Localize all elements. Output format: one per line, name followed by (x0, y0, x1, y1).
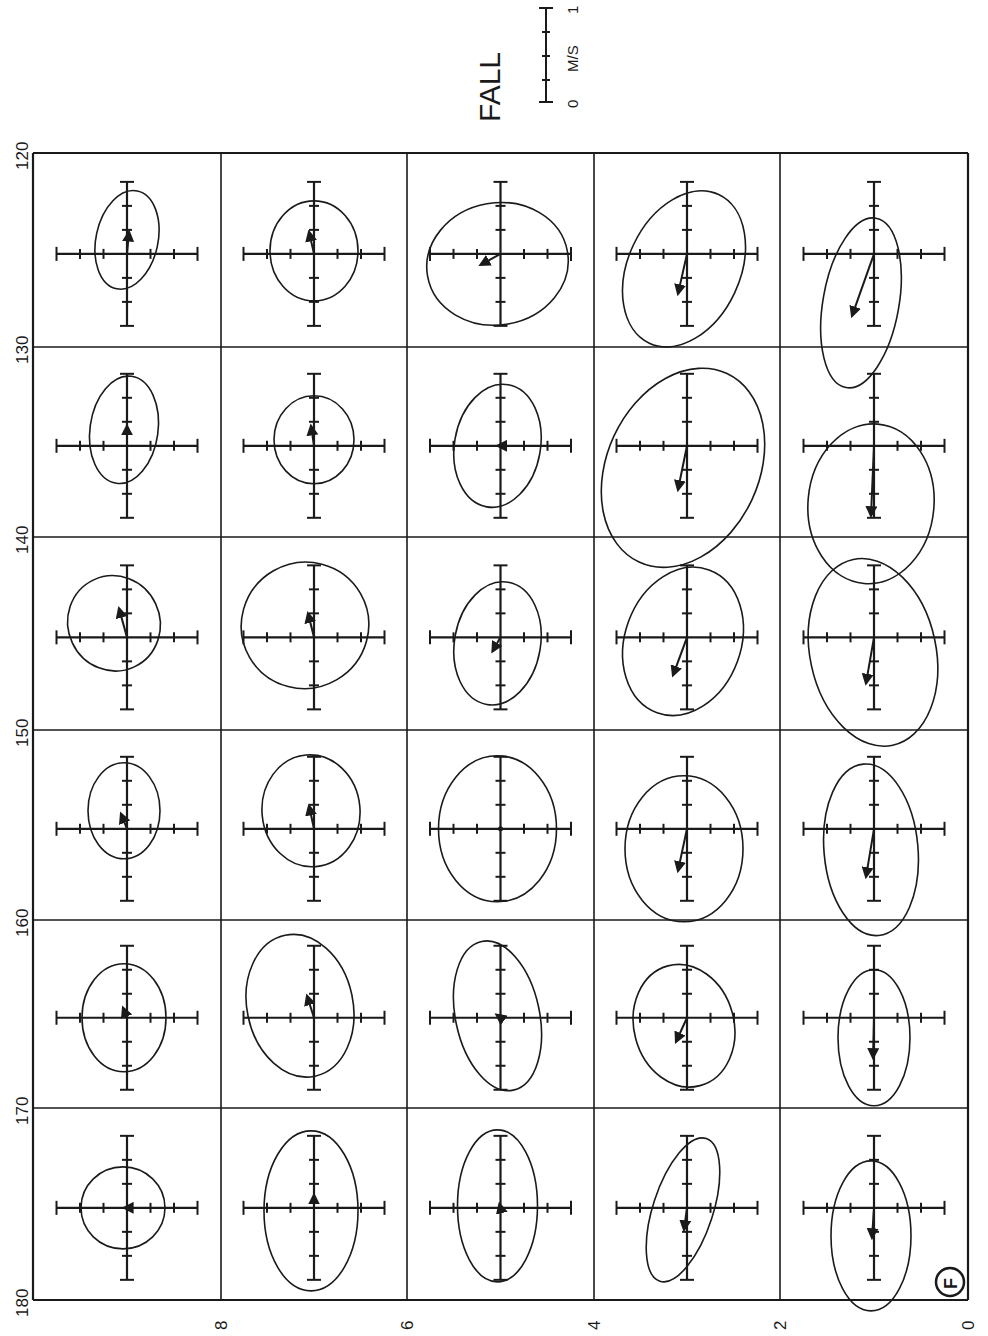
ellipse-cell (603, 550, 764, 733)
ellipse-cell (417, 182, 578, 336)
ellipse-cell (430, 756, 571, 902)
variance-ellipse (631, 1129, 734, 1290)
variance-ellipse (233, 924, 367, 1087)
variance-ellipse (264, 1131, 358, 1291)
axis-left-tick-label: 160 (13, 909, 32, 937)
ellipse-cell (617, 757, 758, 922)
ellipse-cell (570, 341, 796, 594)
axis-left-tick-label: 120 (13, 142, 32, 170)
ellipse-cell (218, 539, 392, 712)
ellipse-cell (57, 757, 198, 901)
ellipse-cell (430, 1130, 571, 1282)
axis-bottom-tick-label: 6 (398, 1321, 417, 1330)
ellipse-cell (599, 171, 770, 367)
mean-velocity-arrow (481, 254, 501, 265)
mean-velocity-arrow (678, 254, 687, 294)
ellipse-cells (52, 171, 954, 1311)
ellipse-cell (57, 1136, 198, 1280)
mean-velocity-dot (498, 826, 503, 831)
axis-left-tick-label: 140 (13, 526, 32, 554)
ellipse-cell (57, 372, 198, 518)
ellipse-cell (244, 374, 385, 518)
ellipse-cell (430, 933, 571, 1099)
variance-ellipse (88, 763, 160, 859)
mean-velocity-arrow (852, 254, 874, 316)
scale-bar-start: 0 (564, 100, 581, 108)
axis-bottom-tick-label: 2 (771, 1321, 790, 1330)
mean-velocity-arrow (500, 1204, 501, 1208)
chart-title: FALL (473, 52, 506, 122)
variance-ellipse (52, 560, 176, 686)
ellipse-cell (804, 757, 945, 940)
axis-left-tick-label: 180 (13, 1289, 32, 1317)
axis-bottom-labels: 86420 (212, 1321, 978, 1330)
axis-left-tick-label: 130 (13, 336, 32, 364)
mean-velocity-arrow (493, 637, 501, 651)
ellipse-cell (244, 751, 385, 901)
axis-left-tick-label: 170 (13, 1097, 32, 1125)
scale-bar: 0 M/S 1 (539, 6, 581, 108)
variance-ellipse (603, 550, 764, 733)
mean-velocity-arrow (673, 637, 687, 675)
axis-bottom-tick-label: 8 (212, 1321, 231, 1330)
ellipse-cell (430, 565, 571, 712)
scale-bar-end: 1 (564, 6, 581, 14)
variance-ellipse (458, 1130, 538, 1282)
variance-ellipse (417, 191, 578, 336)
ellipse-cell (617, 1129, 758, 1290)
variance-ellipse (809, 212, 914, 395)
mean-velocity-arrow (678, 829, 687, 871)
axis-left-tick-label: 150 (13, 719, 32, 747)
ellipse-cell (57, 946, 198, 1090)
ellipse-cell (244, 182, 385, 326)
variance-ellipse (218, 539, 392, 712)
axis-bottom-tick-label: 4 (585, 1321, 604, 1330)
ellipse-cell (804, 946, 945, 1106)
ellipse-cell (792, 546, 955, 758)
mean-velocity-arrow (678, 446, 687, 490)
ellipse-cell (801, 374, 944, 589)
ellipse-cell (617, 946, 758, 1099)
mean-velocity-arrow (676, 1018, 687, 1042)
ellipse-cell (57, 182, 198, 326)
scale-bar-unit: M/S (564, 45, 581, 72)
panel-marker: F (936, 1268, 964, 1296)
mean-velocity-arrow (873, 1018, 874, 1058)
axis-left-labels: 120130140150160170180 (13, 142, 32, 1317)
panel-marker-letter: F (941, 1278, 961, 1289)
current-ellipse-chart: FALL 0 M/S 1 120130140150160170180 86420… (0, 0, 988, 1336)
ellipse-cell (244, 1131, 385, 1291)
ellipse-cell (233, 924, 384, 1089)
ellipse-cell (52, 560, 197, 709)
ellipse-cell (804, 182, 945, 394)
axis-bottom-tick-label: 0 (959, 1321, 978, 1330)
ellipse-cell (804, 1136, 945, 1311)
ellipse-cell (430, 374, 571, 518)
